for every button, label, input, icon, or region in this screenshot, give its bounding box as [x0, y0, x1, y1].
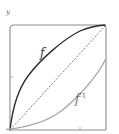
inverse-function-curve-f-inverse: [7, 60, 106, 130]
figure-canvas: [0, 0, 119, 134]
inverse-function-figure: y f f-1: [0, 0, 119, 134]
curve-label-f-inverse: f-1: [75, 93, 86, 105]
curve-label-f: f: [40, 47, 44, 59]
inverse-label-exponent: -1: [79, 92, 86, 100]
y-axis-label: y: [6, 9, 10, 16]
